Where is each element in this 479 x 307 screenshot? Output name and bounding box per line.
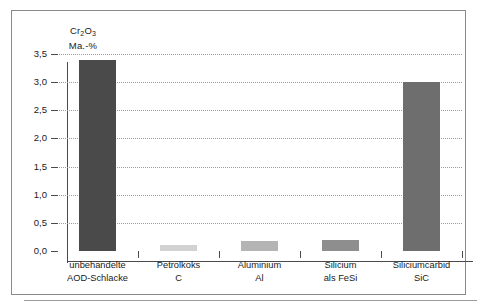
y-axis-tick	[51, 223, 58, 224]
x-axis-tick	[219, 251, 220, 258]
x-axis-tick	[381, 251, 382, 258]
y-axis-tick-label: 2,5	[17, 104, 47, 115]
y-axis-title-formula: Cr2O3	[48, 25, 118, 40]
chart-screenshot: Cr2O3 Ma.-% 0,00,51,01,52,02,53,03,5unbe…	[0, 0, 479, 307]
y-axis-tick-label: 3,0	[17, 76, 47, 87]
y-axis-tick-label: 0,0	[17, 245, 47, 256]
y-axis-tick-label: 2,0	[17, 132, 47, 143]
category-label-line: Siliciumcarbid	[381, 259, 462, 272]
y-axis-title-element: Cr	[70, 25, 80, 36]
gridline	[57, 195, 462, 196]
y-axis-tick	[51, 82, 58, 83]
category-label-line: Aluminium	[219, 259, 300, 272]
gridline	[57, 110, 462, 111]
figure-frame: Cr2O3 Ma.-% 0,00,51,01,52,02,53,03,5unbe…	[11, 10, 466, 295]
bar	[322, 240, 359, 251]
category-label-line: Petrolkoks	[138, 259, 219, 272]
y-axis-tick-label: 1,5	[17, 161, 47, 172]
category-label-line: als FeSi	[300, 272, 381, 285]
y-axis-title-unit: Ma.-%	[48, 40, 118, 52]
category-label-line: Silicium	[300, 259, 381, 272]
category-label-line: SiC	[381, 272, 462, 285]
gridline	[57, 82, 462, 83]
gridline	[57, 167, 462, 168]
y-axis-tick	[51, 251, 58, 252]
y-axis-tick	[51, 54, 58, 55]
y-axis-title-oxygen: O	[84, 25, 92, 36]
bar	[403, 82, 440, 251]
category-label: SiliciumcarbidSiC	[381, 259, 462, 284]
y-axis-tick	[51, 167, 58, 168]
gridline	[57, 138, 462, 139]
x-axis-tick	[138, 251, 139, 258]
category-labels-divider	[24, 300, 477, 301]
y-axis-tick	[51, 195, 58, 196]
category-label-line: C	[138, 272, 219, 285]
gridline	[57, 223, 462, 224]
bar	[241, 241, 278, 251]
category-label: PetrolkoksC	[138, 259, 219, 284]
y-axis-tick	[51, 110, 58, 111]
category-label: AluminiumAl	[219, 259, 300, 284]
x-axis-tick	[300, 251, 301, 258]
category-label-line: unbehandelte	[57, 259, 138, 272]
category-label: unbehandelteAOD-Schlacke	[57, 259, 138, 284]
y-axis-tick-label: 3,5	[17, 48, 47, 59]
category-label: Siliciumals FeSi	[300, 259, 381, 284]
y-axis-line	[67, 62, 68, 263]
y-axis-tick	[51, 138, 58, 139]
bar	[160, 245, 197, 251]
gridline	[57, 54, 462, 55]
y-axis-tick-label: 0,5	[17, 217, 47, 228]
y-axis-title: Cr2O3 Ma.-%	[48, 25, 118, 52]
category-label-line: Al	[219, 272, 300, 285]
x-axis-tick	[462, 251, 463, 258]
y-axis-tick-label: 1,0	[17, 189, 47, 200]
category-label-line: AOD-Schlacke	[57, 272, 138, 285]
y-axis-title-sub-3: 3	[92, 30, 96, 37]
bar	[79, 60, 116, 251]
